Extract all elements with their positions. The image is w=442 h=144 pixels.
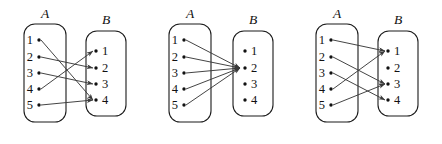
diagram-1-a-label-3: 3 xyxy=(27,66,33,80)
diagram-2-arrows xyxy=(186,40,240,105)
diagram-1-a-label-1: 1 xyxy=(27,33,33,47)
diagram-2-arrow-1-to-2 xyxy=(186,40,240,68)
diagram-2-b-node-4-dot xyxy=(243,98,246,101)
diagram-3-a-node-1-dot xyxy=(329,38,332,41)
diagram-1-a-node-2-dot xyxy=(37,55,40,58)
diagram-1-a-label-2: 2 xyxy=(27,50,33,64)
diagram-2-a-node-2-dot xyxy=(182,55,185,58)
diagram-1-b-label-3: 3 xyxy=(102,77,108,91)
diagram-3-b-node-2-dot xyxy=(386,66,389,69)
diagram-2-a-label-1: 1 xyxy=(172,33,178,47)
arrow-diagrams-figure: A B 1 2 3 4 5 1 2 xyxy=(0,0,442,144)
diagram-2-set-a-nodes: 1 2 3 4 5 xyxy=(172,33,186,112)
diagram-3: A B 1 2 3 4 5 1 2 xyxy=(316,6,418,122)
diagram-1-arrow-3-to-3 xyxy=(41,73,93,84)
diagram-3-b-node-1-dot xyxy=(386,49,389,52)
diagram-3-b-label-2: 2 xyxy=(394,61,400,75)
diagram-3-arrow-5-to-3 xyxy=(333,84,385,105)
diagram-1-b-label-1: 1 xyxy=(102,44,108,58)
diagram-1-a-label-4: 4 xyxy=(27,82,34,96)
diagram-3-set-a-label: A xyxy=(332,6,342,21)
diagram-1-a-node-3-dot xyxy=(37,71,40,74)
diagram-1-a-node-4-dot xyxy=(37,87,40,90)
diagram-3-a-label-5: 5 xyxy=(319,98,325,112)
diagram-1-a-node-5-dot xyxy=(37,103,40,106)
diagram-3-a-node-2-dot xyxy=(329,55,332,58)
diagram-3-a-label-2: 2 xyxy=(319,50,325,64)
diagram-3-a-label-4: 4 xyxy=(319,82,326,96)
diagram-1-a-node-1-dot xyxy=(37,38,40,41)
diagram-3-b-label-1: 1 xyxy=(394,44,400,58)
diagram-1-b-node-2-dot xyxy=(94,66,97,69)
diagram-2-a-node-3-dot xyxy=(182,71,185,74)
diagram-3-arrows xyxy=(333,40,385,105)
diagram-2-b-label-3: 3 xyxy=(251,77,257,91)
diagram-2-arrow-5-to-2 xyxy=(186,68,240,105)
diagram-3-a-label-1: 1 xyxy=(319,33,325,47)
diagram-1: A B 1 2 3 4 5 1 2 xyxy=(24,6,126,122)
diagram-3-a-label-3: 3 xyxy=(319,66,325,80)
diagram-2: A B 1 2 3 4 5 1 2 xyxy=(169,6,273,122)
diagram-1-arrow-4-to-1 xyxy=(41,51,93,89)
diagram-2-set-a-label: A xyxy=(185,6,195,21)
diagram-2-a-node-5-dot xyxy=(182,103,185,106)
diagram-2-b-node-2-dot xyxy=(243,66,246,69)
diagram-1-b-node-1-dot xyxy=(94,49,97,52)
diagram-3-arrow-3-to-4 xyxy=(333,73,385,100)
diagram-3-arrow-4-to-1 xyxy=(333,51,385,89)
diagram-3-a-node-4-dot xyxy=(329,87,332,90)
diagram-1-a-label-5: 5 xyxy=(27,98,33,112)
diagram-3-arrow-1-to-1 xyxy=(333,40,385,51)
diagram-1-set-a-label: A xyxy=(40,6,50,21)
diagram-2-set-b-label: B xyxy=(249,12,257,27)
diagram-1-set-b-nodes: 1 2 3 4 xyxy=(94,44,109,107)
diagram-2-b-node-3-dot xyxy=(243,82,246,85)
diagram-1-arrow-5-to-4 xyxy=(41,100,93,105)
diagram-1-arrow-2-to-2 xyxy=(41,57,93,68)
diagram-1-b-node-4-dot xyxy=(94,98,97,101)
diagram-2-b-label-4: 4 xyxy=(251,93,258,107)
diagram-1-b-node-3-dot xyxy=(94,82,97,85)
diagram-3-b-label-4: 4 xyxy=(394,93,401,107)
diagram-2-arrow-3-to-2 xyxy=(186,68,240,73)
diagram-2-a-node-1-dot xyxy=(182,38,185,41)
diagram-1-set-b-label: B xyxy=(102,12,110,27)
diagram-3-b-node-4-dot xyxy=(386,98,389,101)
diagram-2-b-label-2: 2 xyxy=(251,61,257,75)
diagram-2-a-label-3: 3 xyxy=(172,66,178,80)
diagram-2-arrow-4-to-2 xyxy=(186,68,240,89)
diagram-2-a-label-2: 2 xyxy=(172,50,178,64)
diagram-3-a-node-5-dot xyxy=(329,103,332,106)
diagram-3-set-a-nodes: 1 2 3 4 5 xyxy=(319,33,333,112)
diagram-1-b-label-2: 2 xyxy=(102,61,108,75)
diagram-2-a-node-4-dot xyxy=(182,87,185,90)
diagram-2-a-label-5: 5 xyxy=(172,98,178,112)
diagram-1-b-label-4: 4 xyxy=(102,93,109,107)
diagram-3-b-label-3: 3 xyxy=(394,77,400,91)
diagram-2-b-label-1: 1 xyxy=(251,44,257,58)
diagram-3-b-node-3-dot xyxy=(386,82,389,85)
diagram-3-a-node-3-dot xyxy=(329,71,332,74)
diagram-2-b-node-1-dot xyxy=(243,49,246,52)
diagram-3-set-b-nodes: 1 2 3 4 xyxy=(386,44,401,107)
diagram-1-set-a-nodes: 1 2 3 4 5 xyxy=(27,33,41,112)
diagram-1-arrows xyxy=(41,40,93,105)
diagram-2-a-label-4: 4 xyxy=(172,82,179,96)
arrow-diagrams-canvas: A B 1 2 3 4 5 1 2 xyxy=(0,0,442,144)
diagram-3-set-b-label: B xyxy=(394,12,402,27)
diagram-2-arrow-2-to-2 xyxy=(186,57,240,68)
diagram-2-set-b-nodes: 1 2 3 4 xyxy=(243,44,258,107)
